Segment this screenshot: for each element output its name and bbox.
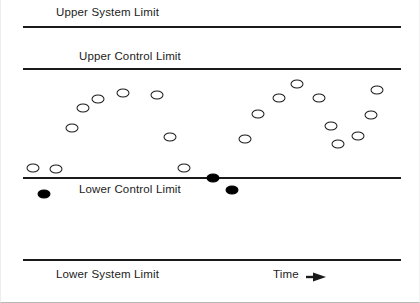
data-point-in-control [77, 104, 90, 113]
data-point-in-control [178, 164, 191, 173]
control-chart: Upper System Limit Upper Control Limit L… [0, 0, 420, 303]
data-point-in-control [151, 91, 164, 100]
data-point-in-control [117, 89, 130, 98]
data-point-in-control [252, 110, 265, 119]
upper-system-limit-label: Upper System Limit [56, 7, 159, 19]
arrow-right-icon [306, 272, 328, 282]
data-point-in-control [352, 132, 365, 141]
data-point-out-of-control [226, 186, 239, 195]
lower-system-limit-line [23, 259, 401, 261]
data-point-out-of-control [38, 190, 51, 199]
data-point-in-control [325, 122, 338, 131]
lower-control-limit-label: Lower Control Limit [79, 184, 181, 196]
data-point-in-control [365, 111, 378, 120]
upper-control-limit-label: Upper Control Limit [79, 51, 181, 63]
data-point-in-control [164, 133, 177, 142]
lower-system-limit-label: Lower System Limit [56, 269, 159, 281]
data-point-out-of-control [207, 174, 220, 183]
upper-control-limit-line [23, 68, 401, 70]
data-point-in-control [332, 140, 345, 149]
upper-system-limit-line [23, 26, 401, 28]
data-point-in-control [50, 165, 63, 174]
time-axis-label: Time [273, 269, 299, 281]
data-point-in-control [239, 135, 252, 144]
data-point-in-control [273, 94, 286, 103]
data-point-in-control [291, 80, 304, 89]
data-point-in-control [371, 86, 384, 95]
data-point-in-control [27, 164, 40, 173]
data-point-in-control [313, 94, 326, 103]
data-point-in-control [92, 95, 105, 104]
data-point-in-control [66, 124, 79, 133]
